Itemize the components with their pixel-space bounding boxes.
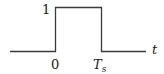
end-time-subscript: s	[102, 64, 107, 74]
end-time-label: Ts	[93, 57, 107, 74]
start-time-label: 0	[51, 57, 59, 72]
pulse-waveform	[10, 8, 146, 52]
pulse-diagram: 1 0 Ts t	[0, 0, 164, 74]
amplitude-label: 1	[42, 2, 50, 17]
time-axis-label: t	[152, 42, 158, 57]
